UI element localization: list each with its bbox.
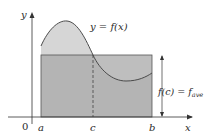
origin-label: 0 bbox=[22, 121, 28, 132]
tick-label-c: c bbox=[90, 122, 96, 133]
y-axis-arrow-icon bbox=[30, 12, 35, 18]
average-label: f(c) = fave bbox=[157, 86, 203, 99]
tick-label-b: b bbox=[149, 122, 155, 133]
up-arrow-icon bbox=[160, 55, 164, 60]
average-rectangle bbox=[41, 55, 152, 117]
y-axis-label: y bbox=[20, 9, 27, 20]
x-axis-arrow-icon bbox=[187, 115, 193, 120]
mean-value-diagram: y x 0 a c b y = f(x) f(c) = fave bbox=[0, 0, 210, 138]
curve-label: y = f(x) bbox=[89, 21, 128, 32]
average-label-sub: ave bbox=[192, 91, 204, 99]
tick-label-a: a bbox=[38, 122, 44, 133]
x-axis-label: x bbox=[185, 122, 191, 133]
down-arrow-icon bbox=[160, 112, 164, 117]
average-label-main: f(c) = f bbox=[157, 86, 193, 97]
